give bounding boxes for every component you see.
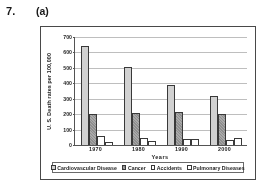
bar-group-1970 xyxy=(81,37,113,145)
legend-swatch-icon xyxy=(51,165,56,170)
legend-label: Cancer xyxy=(128,165,146,171)
bar-1980-cardiovascular-disease xyxy=(124,67,132,145)
legend-swatch-icon xyxy=(151,165,156,170)
figure-frame: U. S. Death rates per 100,000 0100200300… xyxy=(40,26,256,180)
bar-2000-accidents xyxy=(226,140,234,145)
plot-area: 0100200300400500600700 xyxy=(74,37,247,146)
x-axis-tick-label-1980: 1980 xyxy=(119,146,159,152)
bar-1980-cancer xyxy=(132,113,140,145)
bar-2000-cardiovascular-disease xyxy=(210,96,218,145)
bar-1970-cancer xyxy=(89,114,97,145)
legend-entry-cancer: Cancer xyxy=(122,165,146,171)
y-axis-tick-label: 500 xyxy=(63,65,72,71)
bar-1990-pulmonary-diseases xyxy=(191,139,199,145)
part-label: (a) xyxy=(36,5,49,17)
x-axis-tick-label-2000: 2000 xyxy=(205,146,245,152)
bar-1990-cardiovascular-disease xyxy=(167,85,175,145)
legend-entry-accidents: Accidents xyxy=(151,165,182,171)
legend-swatch-icon xyxy=(187,165,192,170)
legend-label: Accidents xyxy=(157,165,182,171)
bar-group-1990 xyxy=(167,37,199,145)
bar-chart: U. S. Death rates per 100,000 0100200300… xyxy=(46,31,250,175)
bar-1990-accidents xyxy=(183,139,191,145)
bar-1980-pulmonary-diseases xyxy=(148,141,156,145)
bar-group-1980 xyxy=(124,37,156,145)
question-header: 7. (a) xyxy=(0,0,266,26)
y-axis-title: U. S. Death rates per 100,000 xyxy=(44,41,54,141)
chart-legend: Cardiovascular DiseaseCancerAccidentsPul… xyxy=(52,162,244,173)
bar-1970-cardiovascular-disease xyxy=(81,46,89,145)
x-axis-title: Years xyxy=(74,154,246,160)
y-axis-tick-label: 700 xyxy=(63,34,72,40)
legend-entry-pulmonary-diseases: Pulmonary Diseases xyxy=(187,165,245,171)
legend-label: Pulmonary Diseases xyxy=(193,165,245,171)
y-axis-tick-label: 600 xyxy=(63,49,72,55)
x-axis-tick-label-1990: 1990 xyxy=(162,146,202,152)
bar-1980-accidents xyxy=(140,138,148,145)
bar-1990-cancer xyxy=(175,112,183,145)
y-axis-title-text: U. S. Death rates per 100,000 xyxy=(46,53,52,130)
x-axis-tick-labels: 1970198019902000 xyxy=(74,146,246,152)
bar-2000-cancer xyxy=(218,114,226,145)
legend-entry-cardiovascular-disease: Cardiovascular Disease xyxy=(51,165,117,171)
legend-swatch-icon xyxy=(122,165,127,170)
question-number: 7. xyxy=(6,5,16,17)
bar-group-2000 xyxy=(210,37,242,145)
y-axis-tick-label: 300 xyxy=(63,96,72,102)
y-axis-tick-label: 200 xyxy=(63,111,72,117)
legend-label: Cardiovascular Disease xyxy=(57,165,117,171)
bar-1970-pulmonary-diseases xyxy=(105,142,113,145)
x-axis-tick-label-1970: 1970 xyxy=(76,146,116,152)
y-axis-tick-label: 400 xyxy=(63,80,72,86)
bar-1970-accidents xyxy=(97,136,105,145)
y-axis-tick-label: 100 xyxy=(63,127,72,133)
bar-2000-pulmonary-diseases xyxy=(234,138,242,145)
bar-groups xyxy=(75,37,247,145)
